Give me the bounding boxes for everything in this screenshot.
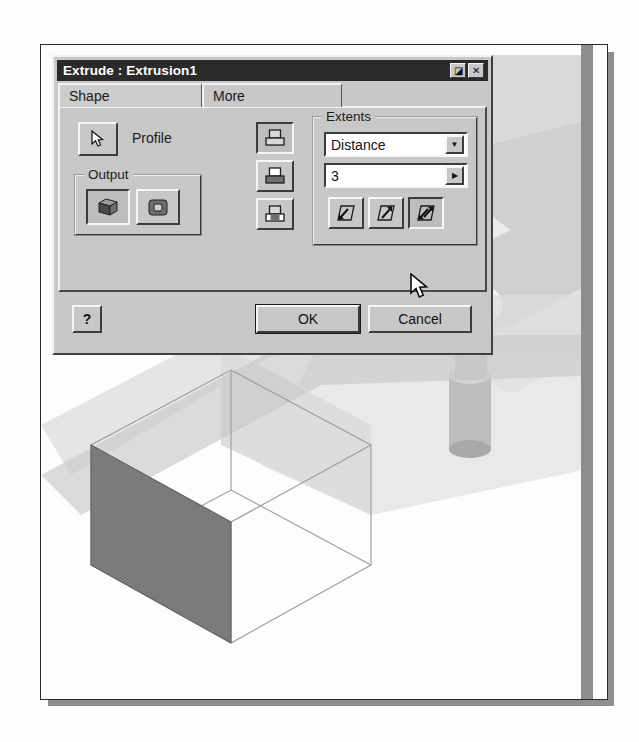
tab-more[interactable]: More bbox=[202, 83, 342, 107]
output-group: Output bbox=[74, 174, 202, 236]
shape-tab-panel: Profile Output bbox=[58, 106, 487, 292]
help-button[interactable]: ? bbox=[72, 305, 102, 333]
extrude-direction-1-icon bbox=[335, 203, 357, 223]
surface-icon bbox=[146, 196, 170, 218]
extrude-dialog[interactable]: Extrude : Extrusion1 ◪ ✕ Shape More Prof… bbox=[52, 55, 493, 355]
output-solid-button[interactable] bbox=[86, 189, 130, 225]
extents-group-title: Extents bbox=[322, 109, 375, 124]
measure-options-arrow-icon[interactable]: ▶ bbox=[445, 166, 464, 185]
operation-join-button[interactable] bbox=[256, 122, 294, 154]
tab-shape[interactable]: Shape bbox=[58, 83, 202, 107]
extrude-direction-symmetric-icon bbox=[415, 203, 437, 223]
context-help-button[interactable]: ◪ bbox=[450, 63, 466, 78]
profile-select-button[interactable] bbox=[78, 122, 118, 156]
screenshot-root: Extrude : Extrusion1 ◪ ✕ Shape More Prof… bbox=[0, 0, 639, 742]
extents-group: Extents Distance ▼ 3 ▶ bbox=[312, 116, 478, 246]
operation-intersect-button[interactable] bbox=[256, 198, 294, 230]
direction-flipped-button[interactable] bbox=[368, 197, 404, 229]
profile-label: Profile bbox=[132, 130, 172, 146]
boolean-join-icon bbox=[264, 128, 286, 148]
extrude-direction-2-icon bbox=[375, 203, 397, 223]
dialog-footer: ? OK Cancel bbox=[58, 295, 487, 347]
chevron-down-icon[interactable]: ▼ bbox=[445, 135, 464, 154]
dialog-title: Extrude : Extrusion1 bbox=[57, 63, 450, 78]
dialog-titlebar[interactable]: Extrude : Extrusion1 ◪ ✕ bbox=[57, 60, 488, 81]
output-group-title: Output bbox=[84, 167, 133, 182]
operation-cut-button[interactable] bbox=[256, 160, 294, 192]
extents-type-value: Distance bbox=[326, 137, 445, 153]
extents-distance-value: 3 bbox=[326, 168, 445, 184]
direction-symmetric-button[interactable] bbox=[408, 197, 444, 229]
boolean-intersect-icon bbox=[264, 204, 286, 224]
tabstrip: Shape More bbox=[58, 83, 487, 107]
arrow-cursor-icon bbox=[91, 130, 105, 148]
output-surface-button[interactable] bbox=[136, 189, 180, 225]
question-mark-icon: ? bbox=[83, 311, 92, 327]
ok-button[interactable]: OK bbox=[256, 305, 360, 333]
scanned-page: Extrude : Extrusion1 ◪ ✕ Shape More Prof… bbox=[40, 44, 608, 700]
cancel-button[interactable]: Cancel bbox=[368, 305, 472, 333]
shaded-profile-face bbox=[91, 445, 231, 643]
solid-cube-icon bbox=[96, 196, 120, 218]
close-button[interactable]: ✕ bbox=[468, 63, 484, 78]
extents-distance-input[interactable]: 3 ▶ bbox=[324, 163, 468, 188]
extents-type-select[interactable]: Distance ▼ bbox=[324, 132, 468, 157]
direction-normal-button[interactable] bbox=[328, 197, 364, 229]
boolean-cut-icon bbox=[264, 166, 286, 186]
titlebar-button-group: ◪ ✕ bbox=[450, 63, 488, 78]
